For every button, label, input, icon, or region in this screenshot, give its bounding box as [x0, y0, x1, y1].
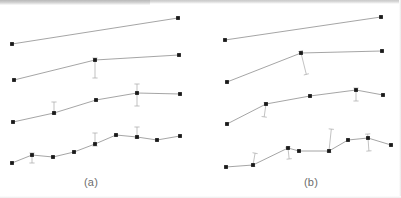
series-b-series-2	[225, 49, 384, 84]
errorbar-cap-upper	[253, 153, 258, 154]
series-line-a-series-3	[13, 93, 180, 122]
data-point-marker	[223, 38, 227, 42]
series-line-b-series-1	[225, 17, 381, 40]
series-line-b-series-3	[227, 90, 383, 124]
data-point-marker	[30, 153, 34, 157]
errorbar-cap-lower	[287, 159, 292, 160]
data-point-marker	[224, 165, 228, 169]
data-point-marker	[10, 42, 14, 46]
errorbar-a-series-3-1	[134, 84, 139, 106]
series-b-series-1	[223, 15, 383, 42]
data-point-marker	[135, 135, 139, 139]
panel-group-a	[10, 16, 182, 165]
data-point-marker	[379, 15, 383, 19]
data-point-marker	[114, 133, 118, 137]
data-point-marker	[327, 149, 331, 153]
figure-canvas: (a) (b)	[0, 0, 401, 198]
data-point-marker	[251, 163, 255, 167]
series-a-series-4	[10, 127, 182, 165]
data-point-marker	[94, 98, 98, 102]
data-point-marker	[72, 150, 76, 154]
errorbar-stem	[329, 129, 331, 152]
data-point-marker	[11, 120, 15, 124]
data-point-marker	[354, 88, 358, 92]
panel-label-a: (a)	[84, 176, 98, 188]
data-point-marker	[177, 53, 181, 57]
errorbar-cap-upper	[329, 129, 334, 130]
data-point-marker	[380, 49, 384, 53]
data-point-marker	[286, 146, 290, 150]
data-point-marker	[225, 122, 229, 126]
data-point-marker	[93, 142, 97, 146]
data-point-marker	[51, 155, 55, 159]
series-a-series-3	[11, 84, 182, 124]
data-point-marker	[299, 51, 303, 55]
series-b-series-3	[225, 88, 385, 126]
data-point-marker	[381, 93, 385, 97]
series-line-b-series-4	[226, 138, 391, 167]
panel-group-b	[223, 15, 393, 169]
series-b-series-4	[224, 129, 393, 169]
data-point-marker	[52, 111, 56, 115]
errorbar-cap-lower	[262, 117, 267, 118]
series-a-series-2	[12, 53, 181, 82]
data-point-marker	[389, 143, 393, 147]
data-point-marker	[346, 138, 350, 142]
series-line-a-series-4	[12, 135, 180, 163]
data-point-marker	[225, 80, 229, 84]
series-line-a-series-1	[12, 18, 178, 44]
data-point-marker	[178, 92, 182, 96]
data-point-marker	[135, 91, 139, 95]
data-point-marker	[308, 94, 312, 98]
data-point-marker	[93, 58, 97, 62]
data-point-marker	[176, 16, 180, 20]
line-chart-plot	[0, 0, 401, 198]
data-point-marker	[178, 134, 182, 138]
data-point-marker	[264, 102, 268, 106]
data-point-marker	[10, 161, 14, 165]
data-point-marker	[297, 149, 301, 153]
data-point-marker	[366, 136, 370, 140]
panel-label-b: (b)	[304, 176, 318, 188]
data-point-marker	[12, 78, 16, 82]
series-a-series-1	[10, 16, 180, 46]
data-point-marker	[155, 138, 159, 142]
